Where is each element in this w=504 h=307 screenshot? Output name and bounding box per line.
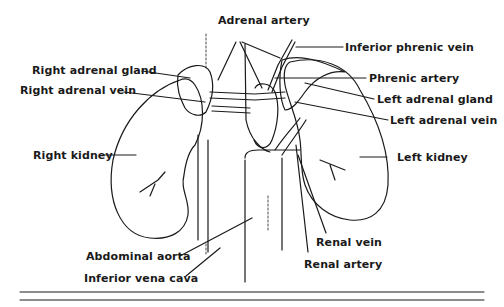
label-left-adrenal-gland: Left adrenal gland — [377, 93, 493, 106]
label-inferior-vena-cava: Inferior vena cava — [84, 272, 198, 285]
label-left-adrenal-vein: Left adrenal vein — [390, 114, 497, 127]
leader-adrenal-artery-1 — [218, 42, 236, 80]
leader-left-adrenal-vein — [295, 102, 388, 120]
label-right-kidney: Right kidney — [33, 149, 113, 162]
leader-left-adrenal-gland — [305, 83, 374, 99]
leader-renal-vein — [298, 155, 326, 233]
left-renal-branch — [320, 160, 345, 180]
label-phrenic-artery: Phrenic artery — [369, 72, 459, 85]
label-adrenal-artery: Adrenal artery — [218, 14, 310, 27]
label-right-adrenal-gland: Right adrenal gland — [32, 64, 157, 77]
right-adrenal-gland-shape — [177, 66, 212, 116]
right-kidney-shape — [111, 79, 202, 238]
label-inferior-phrenic-vein: Inferior phrenic vein — [345, 41, 474, 54]
right-adrenal-vein-vessel — [212, 106, 250, 108]
right-adrenal-artery-vessel-2 — [210, 98, 285, 100]
label-left-kidney: Left kidney — [397, 151, 468, 164]
aorta-left-wall — [245, 150, 300, 158]
leader-renal-artery — [296, 145, 308, 252]
phrenic-artery-vessel-2 — [272, 42, 295, 92]
label-right-adrenal-vein: Right adrenal vein — [20, 84, 136, 97]
right-renal-branch — [140, 172, 165, 196]
leader-right-adrenal-vein — [124, 92, 205, 102]
label-renal-artery: Renal artery — [304, 258, 382, 271]
right-adrenal-artery-vessel — [210, 92, 285, 94]
leader-adrenal-artery-3 — [242, 42, 280, 58]
label-abdominal-aorta: Abdominal aorta — [86, 250, 191, 263]
label-renal-vein: Renal vein — [316, 236, 382, 249]
leader-abdominal-aorta — [180, 218, 252, 256]
right-adrenal-vein-vessel-2 — [212, 111, 250, 113]
